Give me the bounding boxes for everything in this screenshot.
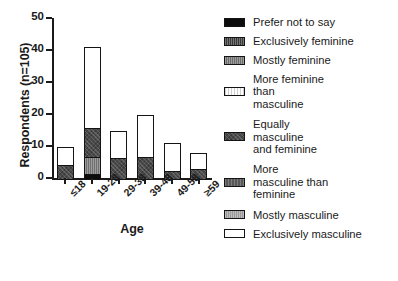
legend-swatch <box>224 18 245 27</box>
y-tick-label: 40 <box>31 42 44 54</box>
bar <box>110 20 127 180</box>
legend-item: Equally masculine and feminine <box>224 118 317 155</box>
legend-swatch <box>224 178 245 187</box>
y-tick-label: 10 <box>31 138 44 150</box>
bar <box>190 20 207 180</box>
y-axis-title: Respondents (n=105) <box>18 20 32 190</box>
x-tick-mark <box>91 178 93 184</box>
x-tick-mark <box>118 178 120 184</box>
bar-segment <box>84 47 101 128</box>
x-tick-label: ≥59 <box>201 178 222 199</box>
figure: Respondents (n=105) 01020304050 ≤1819-28… <box>0 0 398 281</box>
x-tick-mark <box>171 178 173 184</box>
legend-item: More masculine than feminine <box>224 163 328 200</box>
y-tick-mark <box>46 49 52 51</box>
y-tick-label: 20 <box>31 106 44 118</box>
bar <box>84 20 101 180</box>
y-tick-label: 0 <box>38 170 44 182</box>
bar-segment <box>57 147 74 166</box>
y-axis-line <box>52 18 54 180</box>
x-axis-title: Age <box>52 222 212 236</box>
legend-label: Mostly masculine <box>253 209 339 221</box>
bar <box>164 20 181 180</box>
y-tick-label: 30 <box>31 74 44 86</box>
y-tick-mark <box>46 81 52 83</box>
x-tick-mark <box>198 178 200 184</box>
legend-label: Exclusively feminine <box>253 35 354 47</box>
legend-swatch <box>224 210 245 219</box>
bar-segment <box>84 127 101 157</box>
bar <box>57 20 74 180</box>
legend-swatch <box>224 37 245 46</box>
bar-segment <box>137 115 154 158</box>
legend-swatch <box>224 56 245 65</box>
x-tick-mark <box>144 178 146 184</box>
y-tick-mark <box>46 177 52 179</box>
plot-region: Respondents (n=105) 01020304050 ≤1819-28… <box>0 0 218 281</box>
legend-label: Equally masculine and feminine <box>253 118 317 155</box>
legend-label: Exclusively masculine <box>253 228 362 240</box>
axes: 01020304050 ≤1819-2829-3839-4849-58≥59 <box>52 18 212 180</box>
legend-item: Exclusively masculine <box>224 228 362 240</box>
y-tick-label: 50 <box>31 10 44 22</box>
y-tick-mark <box>46 113 52 115</box>
legend-label: Mostly feminine <box>253 54 331 66</box>
bar-segment <box>110 131 127 160</box>
bar-segment <box>190 153 207 170</box>
bar <box>137 20 154 180</box>
y-tick-mark <box>46 145 52 147</box>
legend-item: Mostly masculine <box>224 209 339 221</box>
bar-segment <box>84 156 101 175</box>
legend-swatch <box>224 87 245 96</box>
legend-label: Prefer not to say <box>253 16 335 28</box>
legend-swatch <box>224 229 245 238</box>
legend-item: More feminine than masculine <box>224 73 324 110</box>
x-tick-label: ≤18 <box>67 178 88 199</box>
x-tick-mark <box>64 178 66 184</box>
legend-item: Exclusively feminine <box>224 35 354 47</box>
legend-item: Mostly feminine <box>224 54 331 66</box>
legend-label: More feminine than masculine <box>253 73 324 110</box>
y-tick-mark <box>46 17 52 19</box>
legend-item: Prefer not to say <box>224 16 335 28</box>
legend-label: More masculine than feminine <box>253 163 328 200</box>
legend-swatch <box>224 132 245 141</box>
bar-segment <box>164 143 181 172</box>
